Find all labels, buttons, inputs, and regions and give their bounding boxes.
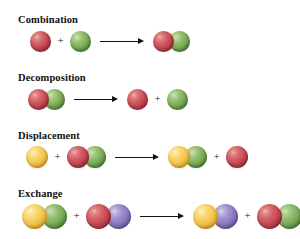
plus-sign: + bbox=[56, 35, 65, 46]
reactant-molecule bbox=[70, 31, 91, 52]
reactant-molecule bbox=[67, 146, 106, 168]
arrow-head bbox=[138, 38, 144, 44]
plus-sign: + bbox=[212, 151, 221, 162]
yellow-sphere bbox=[26, 146, 48, 168]
reaction-label: Decomposition bbox=[18, 72, 86, 83]
yellow-sphere bbox=[168, 146, 190, 168]
red-sphere bbox=[153, 31, 174, 52]
reactant-molecule bbox=[26, 146, 48, 168]
arrow-head bbox=[153, 154, 159, 160]
arrow-shaft bbox=[115, 157, 154, 158]
reaction-label: Displacement bbox=[18, 130, 80, 141]
reactant-molecule bbox=[22, 204, 67, 229]
reactant-molecule bbox=[30, 31, 51, 52]
reaction-label: Combination bbox=[18, 14, 78, 25]
product-molecule bbox=[193, 204, 238, 229]
reaction-types-figure: Combination+Decomposition+Displacement++… bbox=[0, 0, 300, 239]
red-sphere bbox=[127, 89, 148, 110]
product-molecule bbox=[153, 31, 190, 52]
red-sphere bbox=[30, 31, 51, 52]
plus-sign: + bbox=[72, 210, 81, 221]
plus-sign: + bbox=[153, 93, 162, 104]
yellow-sphere bbox=[22, 204, 47, 229]
reactant-molecule bbox=[28, 89, 65, 110]
arrow-head bbox=[178, 213, 184, 219]
reaction-arrow bbox=[140, 212, 184, 221]
red-sphere bbox=[257, 204, 282, 229]
reaction-label: Exchange bbox=[18, 188, 63, 199]
product-molecule bbox=[168, 146, 207, 168]
red-sphere bbox=[226, 146, 248, 168]
product-molecule bbox=[226, 146, 248, 168]
green-sphere bbox=[167, 89, 188, 110]
reaction-arrow bbox=[100, 37, 144, 46]
plus-sign: + bbox=[243, 210, 252, 221]
plus-sign: + bbox=[53, 151, 62, 162]
reaction-arrow bbox=[74, 95, 118, 104]
arrow-head bbox=[112, 96, 118, 102]
product-molecule bbox=[167, 89, 188, 110]
product-molecule bbox=[257, 204, 300, 229]
green-sphere bbox=[70, 31, 91, 52]
arrow-shaft bbox=[140, 216, 179, 217]
red-sphere bbox=[86, 204, 111, 229]
arrow-shaft bbox=[74, 99, 113, 100]
reaction-arrow bbox=[115, 153, 159, 162]
product-molecule bbox=[127, 89, 148, 110]
reactant-molecule bbox=[86, 204, 131, 229]
red-sphere bbox=[28, 89, 49, 110]
yellow-sphere bbox=[193, 204, 218, 229]
arrow-shaft bbox=[100, 41, 139, 42]
red-sphere bbox=[67, 146, 89, 168]
